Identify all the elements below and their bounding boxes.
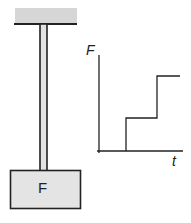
rod — [40, 24, 47, 171]
mass-label: F — [38, 179, 47, 196]
diagram-canvas — [0, 0, 191, 223]
ceiling-support — [15, 8, 77, 24]
y-axis-label: F — [86, 42, 95, 58]
force-step-curve — [126, 76, 180, 151]
x-axis-label: t — [172, 153, 176, 169]
